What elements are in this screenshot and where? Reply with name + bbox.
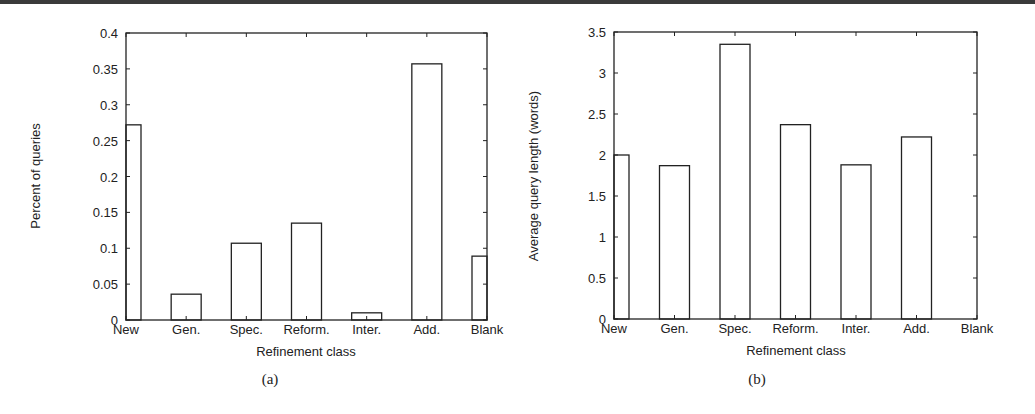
y-tick-label: 0.25 [93,134,118,149]
x-tick-label: Reform. [283,322,329,337]
y-tick-label: 0.15 [93,205,118,220]
x-tick-label: Add. [903,321,930,336]
y-axis-label-a: Percent of queries [28,123,43,229]
y-tick-label: 0.1 [100,241,118,256]
x-tick-label: Spec. [230,322,263,337]
y-axis-label-b: Average query length (words) [526,91,541,261]
bar-reform [292,223,322,320]
x-tick-label: Gen. [660,321,688,336]
y-tick-label: 0.35 [93,62,118,77]
figure: 00.050.10.150.20.250.30.350.4 NewGen.Spe… [0,0,1035,414]
y-tick-label: 1 [599,230,606,245]
caption-b: (b) [748,371,766,388]
x-tick-label: Blank [961,321,994,336]
x-tick-label: New [601,321,628,336]
y-tick-label: 0.05 [93,277,118,292]
y-tick-label: 1.5 [588,189,606,204]
x-tick-label: Reform. [772,321,818,336]
y-tick-label: 3 [599,66,606,81]
bar-add [412,64,442,320]
chart-panel-a: 00.050.10.150.20.250.30.350.4 NewGen.Spe… [28,26,504,388]
caption-a: (a) [262,371,279,388]
x-tick-label: Add. [413,322,440,337]
y-tick-label: 0.2 [100,170,118,185]
bar-new [126,125,141,320]
y-tick-label: 0.5 [588,271,606,286]
bar-inter [841,165,871,319]
x-axis-label-a: Refinement class [256,344,356,359]
x-tick-label: Inter. [842,321,871,336]
y-tick-label: 2.5 [588,107,606,122]
x-axis-label-b: Refinement class [746,343,846,358]
x-tick-label: Spec. [718,321,751,336]
y-tick-label: 3.5 [588,25,606,40]
bar-gen [660,166,690,319]
x-tick-label: New [113,322,140,337]
x-tick-label: Gen. [172,322,200,337]
x-tick-label: Inter. [352,322,381,337]
bar-blank [472,256,487,320]
y-tick-label: 2 [599,148,606,163]
bars-a [126,64,487,320]
x-tick-label: Blank [471,322,504,337]
bar-reform [781,125,811,319]
bars-b [614,44,932,319]
bar-add [902,137,932,319]
bar-spec [720,44,750,319]
y-tick-label: 0.3 [100,98,118,113]
y-tick-label: 0.4 [100,26,118,41]
chart-panel-b: 00.511.522.533.5 NewGen.Spec.Reform.Inte… [526,25,994,388]
bar-spec [231,243,261,320]
